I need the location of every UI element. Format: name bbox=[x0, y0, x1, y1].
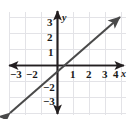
x-tick-label-neg3: −3 bbox=[10, 69, 22, 80]
x-tick-label-2: 2 bbox=[86, 69, 92, 80]
x-tick-label-neg2: −2 bbox=[26, 69, 38, 80]
y-tick-label-neg2: −2 bbox=[43, 82, 55, 93]
y-tick-label-3: 3 bbox=[47, 17, 53, 28]
x-axis-label: x bbox=[121, 69, 126, 79]
y-tick-label-neg3: −3 bbox=[43, 96, 55, 107]
x-tick-label-1: 1 bbox=[70, 69, 76, 80]
y-axis-label: y bbox=[62, 13, 66, 23]
x-tick-label-3: 3 bbox=[102, 69, 108, 80]
y-tick-label-2: 2 bbox=[47, 32, 53, 43]
x-tick-label-4: 4 bbox=[113, 69, 119, 80]
graph-figure: 3 2 1 −2 −3 −3 −2 1 2 3 4 x y bbox=[0, 0, 130, 119]
y-tick-label-1: 1 bbox=[48, 47, 54, 58]
